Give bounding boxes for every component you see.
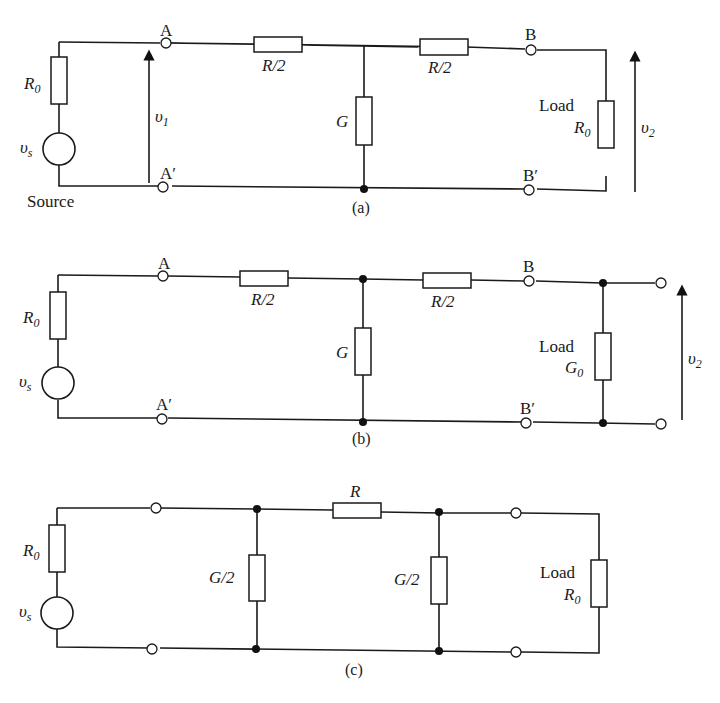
source-resistor-c [49, 525, 65, 572]
caption-c: (c) [345, 661, 363, 679]
label-A-prime-a: A′ [160, 164, 176, 183]
series-resistor-left-a [254, 37, 302, 52]
label-G0-load-b: G0 [565, 358, 583, 380]
shunt-conductance-b [355, 328, 371, 375]
junction-top-right-c [435, 508, 443, 516]
label-v2-a: υ2 [641, 118, 655, 140]
terminal-out-top-c [511, 508, 521, 518]
shunt-left-conductance-c [249, 555, 265, 601]
terminal-A-prime-a [158, 182, 168, 192]
panel-c: R0 υs R G/2 G/2 Load R0 (c) [19, 482, 607, 679]
series-resistor-right-a [420, 39, 468, 55]
label-B-prime-a: B′ [523, 166, 538, 185]
load-resistor-c [591, 560, 607, 607]
label-R0-source-b: R0 [22, 308, 39, 330]
label-load-c: Load [540, 563, 575, 582]
terminal-B-prime-b [521, 418, 531, 428]
terminal-out-bottom-b [656, 419, 666, 429]
junction-bottom-load-b [599, 419, 607, 427]
junction-bottom-shunt-b [359, 418, 367, 426]
label-v1-a: υ1 [155, 107, 169, 129]
source-resistor-b [50, 292, 66, 339]
label-vs-a: υs [20, 138, 33, 160]
panel-b: A A′ B B′ R0 υs R/2 R/2 G Load G0 υ2 (b) [19, 254, 702, 448]
junction-node-a [360, 185, 368, 193]
voltage-source-b [42, 367, 74, 399]
terminal-B-b [524, 276, 534, 286]
junction-top-left-c [253, 505, 261, 513]
label-series-right-b: R/2 [430, 292, 455, 311]
label-source-a: Source [27, 192, 74, 211]
loop-wire-c [57, 508, 599, 653]
label-R0-load-a: R0 [573, 118, 590, 140]
load-resistor-a [598, 101, 614, 148]
terminal-in-bottom-c [147, 644, 157, 654]
voltage-source-c [41, 597, 73, 629]
terminal-out-bottom-c [511, 647, 521, 657]
series-resistor-left-b [240, 271, 288, 286]
voltage-source-a [43, 133, 75, 165]
label-shunt-a: G [336, 112, 348, 131]
terminal-in-top-c [151, 503, 161, 513]
label-series-right-a: R/2 [427, 58, 452, 77]
shunt-right-conductance-c [431, 557, 447, 604]
label-R0-source-c: R0 [22, 541, 39, 563]
terminal-out-top-b [656, 278, 666, 288]
label-series-c: R [349, 482, 361, 501]
label-shunt-left-c: G/2 [209, 568, 235, 587]
terminal-B-prime-a [524, 185, 534, 195]
label-series-left-a: R/2 [261, 56, 286, 75]
panel-a: A A′ B B′ R0 υs Source υ1 R/2 R/2 G Load… [20, 21, 655, 217]
label-R0-source-a: R0 [23, 74, 40, 96]
label-v2-b: υ2 [688, 349, 702, 371]
series-resistor-right-b [423, 273, 471, 288]
label-B-prime-b: B′ [520, 399, 535, 418]
caption-b: (b) [352, 430, 371, 448]
terminal-B-a [526, 45, 536, 55]
caption-a: (a) [352, 199, 370, 217]
series-resistor-c [333, 503, 381, 518]
junction-top-load-b [599, 279, 607, 287]
label-A-prime-b: A′ [156, 395, 172, 414]
junction-top-shunt-b [359, 275, 367, 283]
label-A-a: A [160, 21, 173, 40]
terminal-A-prime-b [157, 414, 167, 424]
shunt-conductance-a [356, 97, 372, 145]
circuit-figure: A A′ B B′ R0 υs Source υ1 R/2 R/2 G Load… [0, 0, 720, 703]
label-B-b: B [523, 257, 534, 276]
top-wire-b [58, 275, 655, 283]
label-load-a: Load [539, 96, 574, 115]
label-B-a: B [525, 25, 536, 44]
label-load-b: Load [539, 337, 574, 356]
label-vs-b: υs [19, 372, 32, 394]
label-shunt-b: G [336, 343, 348, 362]
label-shunt-right-c: G/2 [394, 570, 420, 589]
load-conductance-b [595, 333, 611, 380]
junction-bottom-right-c [435, 647, 443, 655]
label-A-b: A [158, 254, 171, 273]
label-series-left-b: R/2 [250, 290, 275, 309]
label-vs-c: υs [19, 602, 32, 624]
junction-bottom-left-c [252, 645, 260, 653]
source-resistor-a [51, 57, 67, 104]
label-R0-load-c: R0 [563, 585, 580, 607]
